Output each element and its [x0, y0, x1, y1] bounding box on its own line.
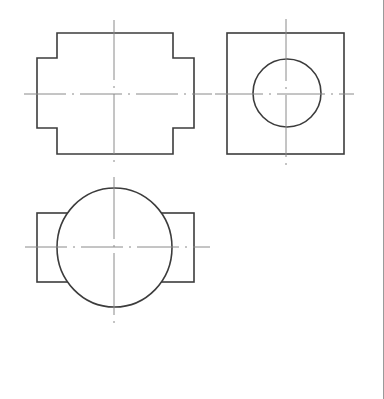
- top-view: [25, 177, 210, 328]
- side-view: [215, 19, 354, 171]
- technical-drawing-canvas: [0, 0, 384, 399]
- side-view-bore-circle: [253, 59, 321, 127]
- front-view: [24, 20, 212, 167]
